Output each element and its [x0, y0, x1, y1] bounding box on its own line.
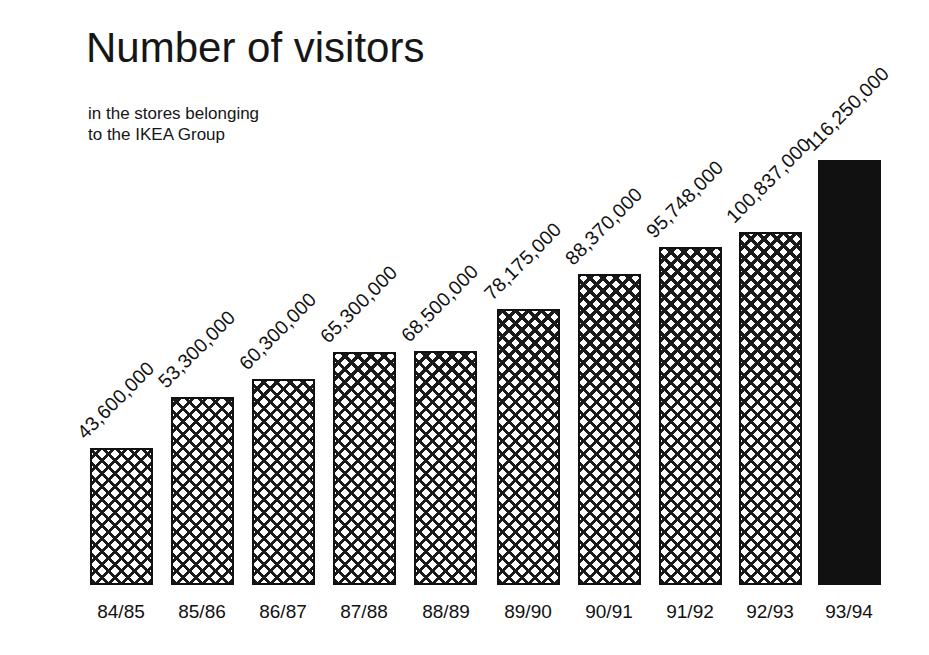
x-axis-label: 92/93	[725, 601, 815, 623]
bar-value-label: 78,175,000	[479, 218, 565, 304]
x-axis-label: 84/85	[76, 601, 166, 623]
x-axis-label: 88/89	[401, 601, 491, 623]
bar-93-94	[818, 160, 881, 585]
bar-89-90	[497, 309, 560, 585]
bar-90-91	[578, 274, 641, 585]
bar-88-89	[414, 351, 477, 585]
bar-value-label: 53,300,000	[153, 306, 239, 392]
bar-86-87	[252, 379, 315, 585]
bar-84-85	[90, 448, 153, 585]
x-axis-label: 89/90	[483, 601, 573, 623]
bar-value-label: 65,300,000	[315, 261, 401, 347]
plot-area: 43,600,00053,300,00060,300,00065,300,000…	[0, 0, 929, 655]
bar-value-label: 100,837,000	[721, 133, 815, 227]
bar-92-93	[739, 232, 802, 585]
bar-value-label: 60,300,000	[234, 288, 320, 374]
x-axis-label: 93/94	[804, 601, 894, 623]
x-axis-label: 86/87	[238, 601, 328, 623]
bar-value-label: 95,748,000	[641, 156, 727, 242]
bar-87-88	[333, 352, 396, 585]
x-axis-label: 87/88	[319, 601, 409, 623]
bar-value-label: 88,370,000	[560, 183, 646, 269]
x-axis-label: 85/86	[157, 601, 247, 623]
bar-value-label: 43,600,000	[72, 357, 158, 443]
bar-value-label: 116,250,000	[800, 62, 893, 155]
bar-85-86	[171, 397, 234, 585]
x-axis-label: 91/92	[645, 601, 735, 623]
bar-91-92	[659, 247, 722, 585]
visitors-bar-chart-figure: Number of visitors in the stores belongi…	[0, 0, 929, 655]
bar-value-label: 68,500,000	[396, 260, 482, 346]
x-axis-label: 90/91	[564, 601, 654, 623]
